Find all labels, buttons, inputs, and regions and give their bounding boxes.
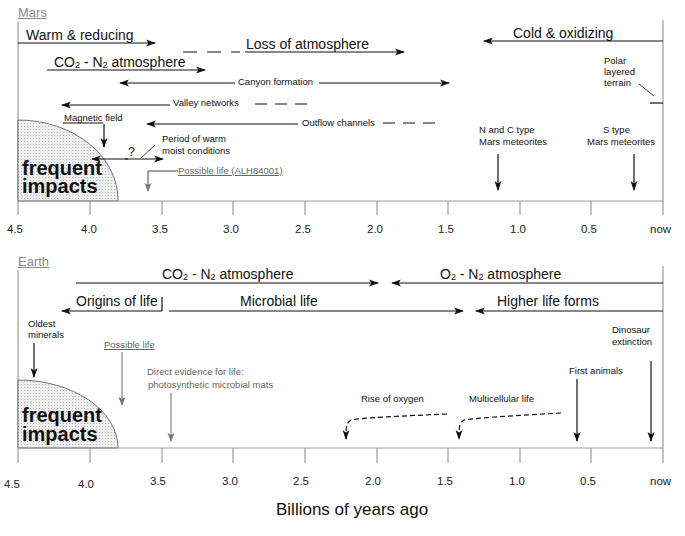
label-first-animals: First animals xyxy=(569,366,623,376)
earth-tick-label: 0.5 xyxy=(580,476,596,488)
mars-tick-label: now xyxy=(650,224,671,236)
label-warm-reducing: Warm & reducing xyxy=(26,28,134,42)
label-origins-of-life: Origins of life xyxy=(76,294,158,308)
x-axis-label: Billions of years ago xyxy=(276,501,428,518)
label-mars-impacts-2: impacts xyxy=(22,176,98,196)
mars-tick-label: 2.5 xyxy=(295,224,311,236)
label-magnetic-field: Magnetic field xyxy=(64,113,123,123)
label-s-type-2: Mars meteorites xyxy=(587,137,655,147)
earth-tick-label: 1.0 xyxy=(509,476,525,488)
arrow-multicellular xyxy=(459,413,561,439)
label-direct-evidence-2: photosynthetic microbial mats xyxy=(148,380,273,390)
label-s-type-1: S type xyxy=(603,125,630,135)
label-dinosaur-2: extinction xyxy=(612,337,652,347)
label-earth-impacts-1: frequent xyxy=(22,405,102,425)
earth-tick-label: 1.5 xyxy=(437,476,453,488)
label-warm-moist-1: Period of warm xyxy=(162,134,226,144)
mars-tick-label: 4.0 xyxy=(81,224,97,236)
label-mars-co2-atmosphere: CO2 - N2 atmosphere xyxy=(54,55,185,69)
earth-tick-label: 3.5 xyxy=(150,476,166,488)
label-earth-impacts-2: impacts xyxy=(22,424,98,444)
label-microbial-life: Microbial life xyxy=(240,294,318,308)
label-nc-type-1: N and C type xyxy=(479,125,534,135)
label-polar-1: Polar xyxy=(604,56,626,66)
label-rise-of-oxygen: Rise of oxygen xyxy=(361,394,424,404)
label-nc-type-2: Mars meteorites xyxy=(479,137,547,147)
mars-panel-title: Mars xyxy=(18,6,47,19)
arrow-rise-oxygen xyxy=(346,414,447,439)
earth-tick-label: 3.0 xyxy=(222,476,238,488)
earth-tick-label: now xyxy=(650,476,671,488)
mars-tick-label: 3.0 xyxy=(223,224,239,236)
label-earth-o2-atmosphere: O2 - N2 atmosphere xyxy=(440,267,561,281)
label-polar-3: terrain xyxy=(604,78,631,88)
mars-tick-label: 0.5 xyxy=(581,224,597,236)
label-multicellular-life: Multicellular life xyxy=(469,394,534,404)
label-higher-life-forms: Higher life forms xyxy=(497,294,599,308)
label-canyon-formation: Canyon formation xyxy=(238,77,313,87)
label-cold-oxidizing: Cold & oxidizing xyxy=(513,26,613,40)
earth-tick-label: 4.0 xyxy=(78,479,94,491)
label-direct-evidence-1: Direct evidence for life: xyxy=(147,367,244,377)
label-possible-life-alh84001: Possible life (ALH84001) xyxy=(178,166,283,176)
mars-tick-label: 1.0 xyxy=(510,224,526,236)
label-loss-atmosphere: Loss of atmosphere xyxy=(246,37,369,51)
label-oldest-2: minerals xyxy=(28,330,64,340)
earth-tick-label: 4.5 xyxy=(4,479,20,491)
label-valley-networks: Valley networks xyxy=(173,98,239,108)
label-question-mark: ? xyxy=(128,146,135,159)
mars-tick-label: 2.0 xyxy=(367,224,383,236)
label-oldest-1: Oldest xyxy=(28,319,55,329)
earth-tick-label: 2.5 xyxy=(293,476,309,488)
label-possible-life-earth: Possible life xyxy=(104,340,155,350)
label-earth-co2-atmosphere: CO2 - N2 atmosphere xyxy=(162,267,293,281)
label-dinosaur-1: Dinosaur xyxy=(612,325,650,335)
mars-tick-label: 1.5 xyxy=(438,224,454,236)
timeline-graphics xyxy=(0,0,685,536)
mars-tick-label: 3.5 xyxy=(152,224,168,236)
label-warm-moist-2: moist conditions xyxy=(162,146,230,156)
mars-tick-label: 4.5 xyxy=(7,224,23,236)
label-polar-2: layered xyxy=(604,67,635,77)
earth-panel-title: Earth xyxy=(18,255,49,268)
earth-tick-label: 2.0 xyxy=(365,476,381,488)
label-outflow-channels: Outflow channels xyxy=(302,118,375,128)
